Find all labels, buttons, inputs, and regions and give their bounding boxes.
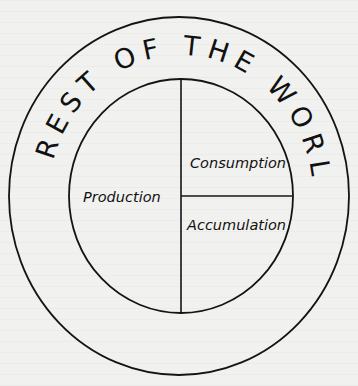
sector-label-production: Production [83, 189, 161, 205]
economy-circle-diagram: REST OF THE WORLD Production Consumption… [0, 0, 358, 386]
sector-label-consumption: Consumption [190, 155, 286, 171]
sector-label-accumulation: Accumulation [186, 217, 286, 233]
outer-circle-rest-of-world [9, 17, 349, 375]
